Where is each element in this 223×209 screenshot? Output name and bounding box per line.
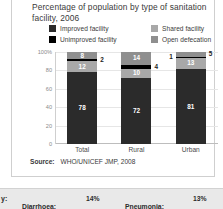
- bar-value-urban-improved-facility: 81: [187, 104, 194, 110]
- chart-panel: Percentage of population by type of sani…: [11, 0, 215, 177]
- bar-value-rural-unimproved-facility: 4: [154, 64, 158, 70]
- y-tick-0: 0: [49, 141, 52, 147]
- legend-item-unimproved-facility: Unimproved facility: [49, 36, 117, 43]
- y-tick-100: 100%: [38, 49, 52, 55]
- legend-swatch-open-defecation: [151, 36, 158, 43]
- source-text: WHO/UNICEF JMP, 2008: [60, 158, 135, 165]
- chart-plot-area: 100% 80 60 40 20 0 8 2: [32, 52, 222, 144]
- stat-label-pneumonia: Pneumonia:: [125, 203, 164, 209]
- bar-value-total-improved-facility: 78: [79, 105, 86, 111]
- x-label-rural: Rural: [121, 146, 151, 153]
- legend-item-improved-facility: Improved facility: [49, 25, 109, 32]
- y-tick-40: 40: [46, 104, 52, 110]
- stat-value-pneumonia: 13%: [193, 195, 207, 202]
- bar-segment-total-shared-facility[interactable]: 12: [67, 61, 97, 72]
- bar-segment-urban-shared-facility[interactable]: 13: [176, 58, 206, 70]
- x-axis-labels: Total Rural Urban: [55, 146, 218, 153]
- stat-item-diarrhoea: Diarrhoea:: [22, 195, 56, 209]
- legend-swatch-shared-facility: [151, 25, 158, 32]
- bar-value-rural-improved-facility: 72: [133, 108, 140, 114]
- y-tick-80: 80: [46, 67, 52, 73]
- page-title: Percentage of population by type of sani…: [32, 2, 222, 23]
- bar-column-rural[interactable]: 14 4 10 72: [121, 52, 151, 144]
- bar-value-total-open-defecation: 8: [80, 53, 84, 59]
- bar-value-total-shared-facility: 12: [79, 64, 86, 70]
- bar-segment-total-improved-facility[interactable]: 78: [67, 72, 97, 144]
- bar-value-rural-shared-facility: 10: [133, 70, 140, 76]
- bar-segment-rural-improved-facility[interactable]: 72: [121, 78, 151, 144]
- stats-bar: y: Diarrhoea: 14% Pneumonia: 13%: [0, 188, 223, 209]
- legend-swatch-unimproved-facility: [49, 36, 56, 43]
- legend-label-open-defecation: Open defecation: [162, 36, 211, 43]
- bar-segment-rural-shared-facility[interactable]: 10: [121, 69, 151, 78]
- stat-item-pneumonia: Pneumonia:: [125, 195, 164, 209]
- stats-bar-prefix: y:: [1, 195, 7, 202]
- bar-segment-rural-open-defecation[interactable]: 14: [121, 52, 151, 65]
- legend-item-open-defecation: Open defecation: [151, 36, 211, 43]
- x-label-urban: Urban: [176, 146, 206, 153]
- y-tick-20: 20: [46, 123, 52, 129]
- bar-column-total[interactable]: 8 2 12 78: [67, 52, 97, 144]
- chart-legend: Improved facility Unimproved facility Sh…: [49, 25, 223, 47]
- legend-label-shared-facility: Shared facility: [162, 25, 204, 32]
- x-label-total: Total: [67, 146, 97, 153]
- bar-value-urban-unimproved-facility: 1: [169, 54, 173, 60]
- source-line: Source: WHO/UNICEF JMP, 2008: [30, 158, 135, 165]
- bar-column-urban[interactable]: 5 1 13 81: [176, 52, 206, 144]
- bar-segment-urban-improved-facility[interactable]: 81: [176, 69, 206, 144]
- bar-value-urban-open-defecation: 5: [209, 51, 213, 57]
- legend-item-shared-facility: Shared facility: [151, 25, 204, 32]
- bar-value-urban-shared-facility: 13: [187, 60, 194, 66]
- stat-value-diarrhoea: 14%: [86, 195, 100, 202]
- y-tick-60: 60: [46, 86, 52, 92]
- stat-label-diarrhoea: Diarrhoea:: [22, 203, 56, 209]
- legend-swatch-improved-facility: [49, 25, 56, 32]
- chart-bars: 8 2 12 78 14 4: [55, 52, 218, 144]
- source-label: Source:: [30, 158, 55, 165]
- bar-value-rural-open-defecation: 14: [133, 55, 140, 61]
- legend-label-unimproved-facility: Unimproved facility: [60, 36, 117, 43]
- y-axis: 100% 80 60 40 20 0: [32, 52, 54, 144]
- bar-segment-total-open-defecation[interactable]: 8: [67, 52, 97, 59]
- bar-value-total-unimproved-facility: 2: [100, 57, 104, 63]
- legend-label-improved-facility: Improved facility: [60, 25, 109, 32]
